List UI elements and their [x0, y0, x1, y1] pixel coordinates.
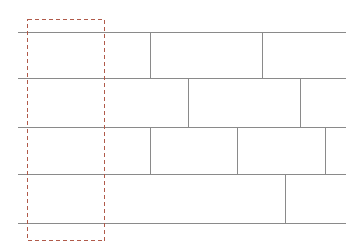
coursing-diagram-canvas — [0, 0, 360, 246]
masonry-coursing-diagram — [0, 0, 360, 246]
repeat-module-outline — [28, 20, 105, 241]
bed-joint-group — [18, 33, 346, 224]
